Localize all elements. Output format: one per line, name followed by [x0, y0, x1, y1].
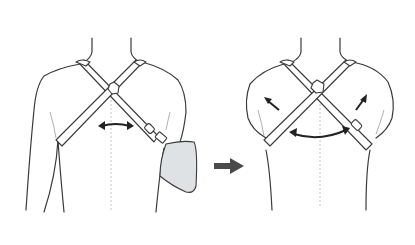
clavicle-brace-diagram: Figure-of-eight clavicle brace: before a…	[0, 0, 415, 245]
arrow-up-right-icon	[356, 94, 367, 110]
arm-sling	[160, 141, 197, 192]
right-arrow-icon	[214, 158, 244, 174]
double-arrow-icon	[98, 121, 134, 130]
arrow-up-left-icon	[264, 97, 279, 110]
panel-before: Brace fitted with arm sling	[26, 38, 197, 212]
panel-after: Brace tightened, shoulders pulled back	[246, 38, 393, 210]
double-arrow-icon	[289, 126, 350, 137]
figure-eight-strap-before	[56, 60, 167, 146]
